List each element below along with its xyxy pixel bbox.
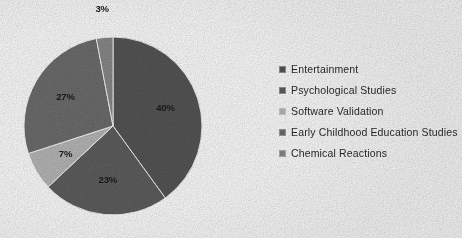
legend-item-label: Entertainment [291,63,358,75]
chart-legend: EntertainmentPsychological StudiesSoftwa… [279,63,459,159]
square-marker [279,150,286,157]
legend-item[interactable]: Software Validation [279,105,459,117]
pie-chart-plot-area: 40%23%7%27%3% [0,0,240,238]
pie-slice-value-label: 23% [99,174,118,185]
square-marker [279,108,286,115]
pie-slices-group [24,37,202,215]
legend-item-label: Software Validation [291,105,384,117]
legend-item[interactable]: Psychological Studies [279,84,459,96]
legend-item-label: Psychological Studies [291,84,396,96]
pie-chart-figure: 40%23%7%27%3% EntertainmentPsychological… [0,0,462,238]
legend-item[interactable]: Chemical Reactions [279,147,459,159]
square-marker [279,66,286,73]
pie-slice-value-label: 40% [156,102,175,113]
pie-slice-value-label: 27% [56,91,75,102]
legend-item[interactable]: Entertainment [279,63,459,75]
pie-chart-svg: 40%23%7%27%3% [0,0,240,238]
legend-item-label: Early Childhood Education Studies [291,126,458,138]
square-marker [279,129,286,136]
pie-slice-value-label: 7% [59,148,73,159]
legend-item-label: Chemical Reactions [291,147,387,159]
legend-item[interactable]: Early Childhood Education Studies [279,126,459,138]
square-marker [279,87,286,94]
pie-slice-value-label: 3% [96,3,110,14]
